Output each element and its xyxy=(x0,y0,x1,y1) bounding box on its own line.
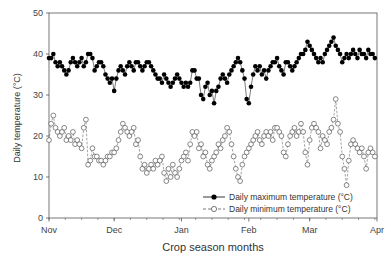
data-point xyxy=(186,85,191,90)
data-point xyxy=(49,121,54,126)
data-point xyxy=(142,64,147,69)
data-point xyxy=(175,175,180,180)
data-point xyxy=(331,117,336,122)
data-point xyxy=(88,158,93,163)
data-point xyxy=(244,97,249,102)
data-point xyxy=(129,64,134,69)
data-point xyxy=(325,48,330,53)
data-point xyxy=(349,52,354,57)
y-tick-label: 0 xyxy=(38,213,43,223)
data-point xyxy=(88,52,93,57)
data-point xyxy=(49,56,54,61)
data-point xyxy=(218,76,223,81)
data-point xyxy=(131,68,136,73)
data-point xyxy=(270,138,275,143)
data-point xyxy=(316,130,321,135)
data-point xyxy=(138,154,143,159)
x-tick-label: Nov xyxy=(41,225,58,235)
data-point xyxy=(242,76,247,81)
data-point xyxy=(236,56,241,61)
data-point xyxy=(99,60,104,65)
data-point xyxy=(66,68,71,73)
data-point xyxy=(138,64,143,69)
data-point xyxy=(68,138,73,143)
data-point xyxy=(53,60,58,65)
data-point xyxy=(84,117,89,122)
data-point xyxy=(62,125,67,130)
legend-min-marker-icon xyxy=(211,206,216,211)
data-point xyxy=(279,134,284,139)
data-point xyxy=(318,56,323,61)
data-point xyxy=(94,64,99,69)
data-point xyxy=(164,179,169,184)
data-point xyxy=(136,60,141,65)
x-tick-label: Jan xyxy=(174,225,189,235)
y-tick-label: 30 xyxy=(33,90,43,100)
data-point xyxy=(362,154,367,159)
data-point xyxy=(320,60,325,65)
data-point xyxy=(168,85,173,90)
data-point xyxy=(207,166,212,171)
data-point xyxy=(203,85,208,90)
data-point xyxy=(225,80,230,85)
data-point xyxy=(238,179,243,184)
data-point xyxy=(58,60,63,65)
data-point xyxy=(175,72,180,77)
legend-max-label: Daily maximum temperature (°C) xyxy=(229,192,353,202)
x-tick-label: Mar xyxy=(302,225,318,235)
data-point xyxy=(114,146,119,151)
data-point xyxy=(203,150,208,155)
data-point xyxy=(118,130,123,135)
data-point xyxy=(162,171,167,176)
data-point xyxy=(153,72,158,77)
legend: Daily maximum temperature (°C) Daily min… xyxy=(203,192,353,214)
plot-frame xyxy=(49,13,377,218)
data-point xyxy=(303,48,308,53)
data-point xyxy=(110,76,115,81)
data-point xyxy=(197,76,202,81)
data-point xyxy=(105,76,110,81)
data-point xyxy=(316,60,321,65)
data-point xyxy=(142,162,147,167)
y-tick-label: 40 xyxy=(33,49,43,59)
data-point xyxy=(303,150,308,155)
data-point xyxy=(166,166,171,171)
temperature-chart: 01020304050 NovDecJanFebMarApr Crop seas… xyxy=(0,0,391,265)
data-point xyxy=(123,72,128,77)
data-point xyxy=(60,64,65,69)
data-point xyxy=(136,138,141,143)
x-axis-ticks: NovDecJanFebMarApr xyxy=(41,218,384,235)
y-axis-ticks: 01020304050 xyxy=(33,8,49,223)
data-point xyxy=(214,89,219,94)
data-point xyxy=(362,52,367,57)
data-point xyxy=(314,56,319,61)
data-point xyxy=(186,158,191,163)
data-point xyxy=(305,162,310,167)
data-point xyxy=(353,52,358,57)
data-point xyxy=(227,130,232,135)
data-point xyxy=(62,68,67,73)
data-point xyxy=(160,154,165,159)
y-tick-label: 20 xyxy=(33,131,43,141)
data-point xyxy=(364,56,369,61)
data-point xyxy=(323,52,328,57)
data-point xyxy=(325,142,330,147)
data-point xyxy=(177,166,182,171)
data-point xyxy=(149,64,154,69)
data-point xyxy=(160,80,165,85)
data-point xyxy=(199,93,204,98)
data-point xyxy=(301,130,306,135)
data-point xyxy=(342,56,347,61)
data-point xyxy=(227,72,232,77)
data-point xyxy=(81,64,86,69)
data-point xyxy=(77,60,82,65)
data-point xyxy=(166,80,171,85)
data-point xyxy=(216,85,221,90)
data-point xyxy=(184,80,189,85)
data-point xyxy=(286,142,291,147)
data-point xyxy=(231,64,236,69)
data-point xyxy=(188,142,193,147)
x-tick-label: Apr xyxy=(370,225,384,235)
y-tick-label: 10 xyxy=(33,172,43,182)
data-point xyxy=(112,89,117,94)
